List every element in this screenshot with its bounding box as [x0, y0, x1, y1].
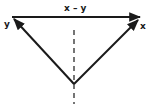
vector-y	[14, 19, 74, 84]
label-x: x	[140, 22, 146, 31]
vector-diagram: x – y y x	[0, 0, 152, 106]
vector-diagram-svg	[0, 0, 152, 106]
label-y: y	[4, 20, 10, 29]
label-x-minus-y: x – y	[64, 4, 86, 13]
vector-x	[74, 20, 138, 84]
